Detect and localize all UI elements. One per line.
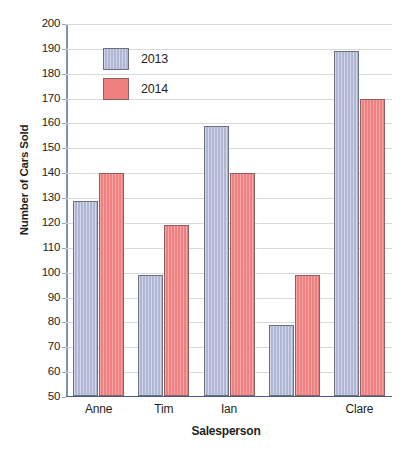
y-tick-label: 120: [26, 217, 60, 229]
y-tick-label: 90: [26, 292, 60, 304]
y-tick-label: 60: [26, 366, 60, 378]
y-tick-label: 200: [26, 18, 60, 30]
bar-Clare-2013: [334, 51, 359, 395]
y-tick-label: 140: [26, 167, 60, 179]
bar-group: [334, 25, 385, 396]
bar-Clare-2014: [360, 99, 385, 396]
y-tick-mark: [62, 372, 66, 373]
y-tick-mark: [62, 347, 66, 348]
bar-unlabeled-2014: [295, 275, 320, 395]
y-tick-mark: [62, 99, 66, 100]
y-tick-mark: [62, 148, 66, 149]
y-tick-label: 110: [26, 242, 60, 254]
bar-Ian-2014: [230, 173, 255, 395]
y-tick-label: 130: [26, 192, 60, 204]
x-axis-title: Salesperson: [56, 424, 396, 438]
y-tick-label: 70: [26, 341, 60, 353]
y-tick-mark: [62, 223, 66, 224]
y-tick-mark: [62, 322, 66, 323]
legend-swatch-2013: [103, 48, 129, 70]
y-tick-mark: [62, 74, 66, 75]
y-tick-mark: [62, 49, 66, 50]
bar-Tim-2014: [164, 225, 189, 395]
y-tick-label: 160: [26, 117, 60, 129]
legend-label-2013: 2013: [141, 52, 168, 66]
y-tick-label: 150: [26, 142, 60, 154]
y-tick-mark: [62, 298, 66, 299]
y-tick-mark: [62, 24, 66, 25]
legend-item-2013: 2013: [103, 44, 168, 74]
y-tick-label: 100: [26, 267, 60, 279]
bar-Anne-2013: [73, 201, 98, 396]
bar-unlabeled-2013: [269, 325, 294, 396]
y-axis-title: Number of Cars Sold: [18, 110, 30, 250]
legend-label-2014: 2014: [141, 82, 168, 96]
bar-group: [204, 25, 255, 396]
y-tick-mark: [62, 198, 66, 199]
y-axis-line: [66, 24, 68, 397]
y-tick-label: 80: [26, 316, 60, 328]
bar-Tim-2013: [138, 275, 163, 395]
legend-item-2014: 2014: [103, 74, 168, 104]
bar-chart: Number of Cars Sold 20019018017016015014…: [0, 0, 403, 451]
y-tick-label: 180: [26, 68, 60, 80]
x-axis-line: [66, 396, 392, 398]
y-tick-label: 50: [26, 391, 60, 403]
y-tick-mark: [62, 248, 66, 249]
y-tick-mark: [62, 123, 66, 124]
y-tick-mark: [62, 273, 66, 274]
y-tick-label: 170: [26, 93, 60, 105]
bar-Ian-2013: [204, 126, 229, 396]
y-tick-mark: [62, 397, 66, 398]
chart-legend: 20132014: [103, 44, 168, 104]
x-tick-label: Ian: [189, 402, 269, 416]
y-tick-mark: [62, 173, 66, 174]
legend-swatch-2014: [103, 78, 129, 100]
x-tick-label: Clare: [319, 402, 399, 416]
y-tick-label: 190: [26, 43, 60, 55]
bar-group: [269, 25, 320, 396]
bar-Anne-2014: [99, 173, 124, 395]
